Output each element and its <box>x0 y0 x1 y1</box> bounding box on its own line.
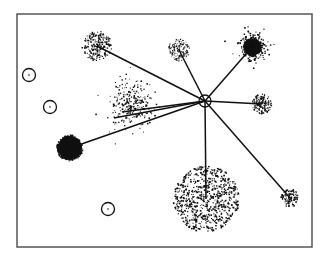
edges-layer <box>70 46 290 199</box>
diagram-frame <box>17 14 312 247</box>
cluster-center-scatter <box>95 67 159 144</box>
hub-spoke-diagram <box>0 0 331 261</box>
edge-bottom-right <box>205 101 290 198</box>
cluster-left-dark <box>56 134 83 161</box>
empty-node <box>102 203 115 216</box>
edge-bottom-large <box>205 101 206 199</box>
empty-node <box>44 101 57 114</box>
edge-top-left <box>97 46 205 101</box>
cluster-top-right <box>224 26 274 69</box>
edge-top-center <box>179 50 205 101</box>
diagram-canvas <box>0 0 331 261</box>
cluster-bottom-right <box>280 189 298 207</box>
clusters-layer <box>56 26 298 231</box>
cluster-top-left <box>81 31 111 61</box>
cluster-right <box>252 94 272 115</box>
empty-node <box>23 69 36 82</box>
